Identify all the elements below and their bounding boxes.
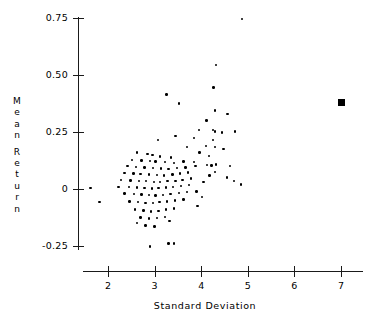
data-point [165, 93, 167, 95]
scatter-plot-figure: -0.2500.250.500.75 234567 MeanReturn Sta… [0, 0, 374, 325]
x-axis-tick [108, 266, 109, 277]
data-point [202, 181, 204, 183]
data-point [134, 208, 136, 210]
data-point [178, 102, 180, 104]
data-point [182, 160, 184, 162]
data-point [186, 146, 188, 148]
data-point [151, 187, 153, 189]
data-point [241, 18, 243, 20]
data-point [158, 201, 160, 203]
data-point [156, 174, 158, 176]
y-axis-tick [73, 18, 84, 19]
data-point [205, 119, 207, 121]
data-point [89, 187, 91, 189]
data-point [151, 154, 153, 156]
x-axis-tick [155, 266, 156, 277]
data-point [159, 181, 161, 183]
data-point [144, 224, 146, 226]
data-point [174, 199, 176, 201]
data-point [136, 186, 138, 188]
data-point [173, 207, 175, 209]
data-point [169, 193, 171, 195]
y-axis-tick [73, 75, 84, 76]
y-axis-tick-label: 0.75 [46, 13, 68, 23]
x-axis-line [83, 271, 363, 272]
data-point [174, 180, 176, 182]
data-point [164, 161, 166, 163]
data-point [145, 180, 147, 182]
data-point [194, 165, 196, 167]
data-point [221, 131, 223, 133]
data-point [215, 64, 217, 66]
y-axis-title-char: r [9, 192, 25, 203]
data-point [126, 165, 128, 167]
y-axis-tick-label: 0.50 [46, 70, 68, 80]
y-axis-tick [73, 132, 84, 133]
data-point [120, 179, 122, 181]
data-point [214, 146, 216, 148]
data-point [171, 173, 173, 175]
x-axis-title: Standard Deviation [0, 300, 374, 311]
data-point [123, 172, 125, 174]
data-point [181, 179, 183, 181]
data-point [166, 180, 168, 182]
data-point [206, 164, 208, 166]
data-point [173, 162, 175, 164]
data-point [149, 160, 151, 162]
data-point [172, 186, 174, 188]
data-point [144, 202, 146, 204]
data-point [165, 208, 167, 210]
data-point [193, 137, 195, 139]
data-point [212, 86, 214, 88]
x-axis-tick-label: 3 [145, 281, 165, 291]
data-point [193, 161, 195, 163]
x-axis-tick-label: 7 [331, 281, 351, 291]
x-axis-tick [341, 266, 342, 277]
data-point [156, 217, 158, 219]
data-point [214, 171, 216, 173]
data-point [152, 202, 154, 204]
data-point [139, 173, 141, 175]
data-point [226, 113, 228, 115]
data-point [166, 200, 168, 202]
data-point [170, 156, 172, 158]
y-axis-title-char: a [9, 119, 25, 130]
data-point [187, 171, 189, 173]
data-point [140, 159, 142, 161]
data-point [168, 220, 170, 222]
y-axis-title: MeanReturn [9, 96, 25, 215]
x-axis-tick-label: 4 [191, 281, 211, 291]
data-point [149, 245, 151, 247]
y-axis-title-char: M [9, 96, 25, 107]
data-point [98, 201, 100, 203]
y-axis-tick-label: -0.25 [42, 241, 68, 251]
data-point [188, 184, 190, 186]
data-point [128, 186, 130, 188]
x-axis-tick-label: 2 [98, 281, 118, 291]
data-point [148, 173, 150, 175]
data-point [143, 166, 145, 168]
data-point [150, 210, 152, 212]
y-axis-tick-label: 0 [62, 184, 68, 194]
y-axis-tick [73, 189, 84, 190]
x-axis-tick [248, 266, 249, 277]
y-axis-title-char: n [9, 130, 25, 141]
data-point [143, 187, 145, 189]
data-point [154, 194, 156, 196]
data-point [153, 181, 155, 183]
data-point [176, 167, 178, 169]
data-point [210, 164, 212, 166]
data-point [198, 129, 200, 131]
data-point [123, 192, 125, 194]
data-point [167, 242, 169, 244]
data-point [180, 185, 182, 187]
data-point [159, 155, 161, 157]
y-axis-title-char: t [9, 169, 25, 180]
data-point [129, 179, 131, 181]
data-point [157, 139, 159, 141]
data-point [233, 180, 235, 182]
data-point [162, 194, 164, 196]
data-point [128, 200, 130, 202]
data-point [137, 201, 139, 203]
data-point [195, 190, 197, 192]
